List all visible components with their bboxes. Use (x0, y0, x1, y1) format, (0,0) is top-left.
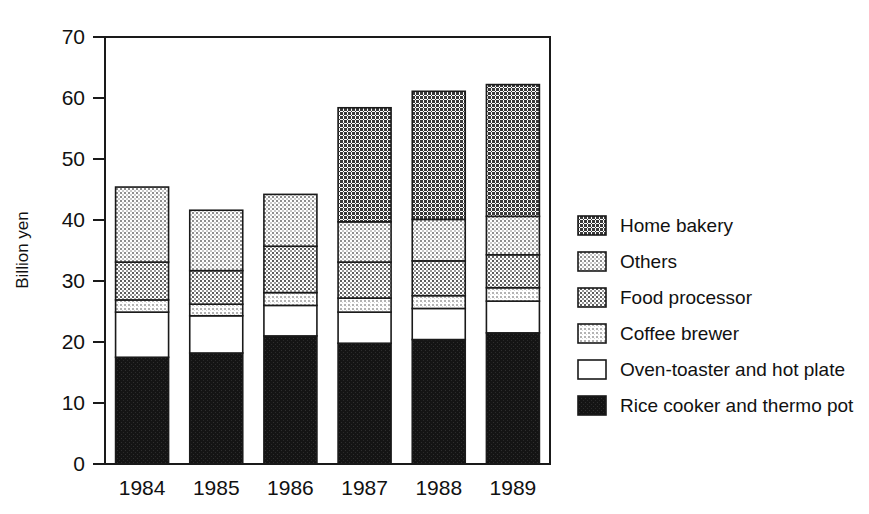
y-axis-tick-labels: 010203040506070 (62, 25, 85, 475)
bar-segment (486, 333, 539, 464)
bar-segment (338, 262, 391, 298)
legend-swatch (578, 288, 606, 307)
bar-segment (116, 312, 169, 357)
bar-segment (486, 85, 539, 217)
bar-segment (116, 357, 169, 464)
bar-segment (190, 353, 243, 464)
y-tick-label-30: 30 (62, 269, 85, 292)
plot-frame (105, 37, 550, 464)
legend-label: Others (620, 251, 677, 272)
bar-segment (264, 246, 317, 292)
bar-segment (338, 108, 391, 222)
legend-label: Rice cooker and thermo pot (620, 395, 854, 416)
bar-segment (264, 305, 317, 336)
legend-label: Oven-toaster and hot plate (620, 359, 845, 380)
legend-label: Coffee brewer (620, 323, 740, 344)
legend-swatch (578, 216, 606, 235)
bar-segment (486, 216, 539, 254)
y-tick-label-40: 40 (62, 208, 85, 231)
bar-segment (190, 271, 243, 305)
plot-area-border (105, 37, 550, 464)
y-tick-label-60: 60 (62, 86, 85, 109)
x-tick-label-1985: 1985 (193, 476, 240, 499)
x-axis-tick-labels: 198419851986198719881989 (119, 476, 537, 499)
y-tick-label-50: 50 (62, 147, 85, 170)
bar-segment (486, 288, 539, 301)
bar-segment (116, 262, 169, 300)
bar-segment (190, 304, 243, 316)
bar-segment (264, 194, 317, 246)
bar-segment (338, 222, 391, 262)
bar-segment (116, 187, 169, 262)
bar-segment (338, 298, 391, 312)
legend-label: Food processor (620, 287, 753, 308)
legend-label: Home bakery (620, 215, 733, 236)
bar-segment (486, 255, 539, 288)
bar-segment (412, 308, 465, 339)
bar-segment (412, 261, 465, 296)
bar-segment (264, 293, 317, 306)
chart-canvas: 010203040506070 Billion yen 198419851986… (0, 0, 869, 514)
legend-swatch (578, 396, 606, 415)
y-axis-ticks (93, 37, 105, 464)
x-tick-label-1987: 1987 (341, 476, 388, 499)
bar-segment (412, 91, 465, 219)
legend: Home bakeryOthersFood processorCoffee br… (578, 215, 854, 416)
stacked-bar-chart: 010203040506070 Billion yen 198419851986… (0, 0, 869, 514)
x-tick-label-1989: 1989 (490, 476, 537, 499)
y-tick-label-20: 20 (62, 330, 85, 353)
legend-swatch (578, 324, 606, 343)
bar-segment (338, 343, 391, 464)
y-axis-title: Billion yen (13, 211, 32, 289)
bar-segment (338, 312, 391, 343)
x-tick-label-1986: 1986 (267, 476, 314, 499)
bar-segment (412, 296, 465, 309)
legend-swatch (578, 360, 606, 379)
bar-segment (412, 219, 465, 260)
x-tick-label-1988: 1988 (415, 476, 462, 499)
x-tick-label-1984: 1984 (119, 476, 166, 499)
bar-segment (190, 210, 243, 270)
y-tick-label-70: 70 (62, 25, 85, 48)
y-tick-label-0: 0 (73, 452, 85, 475)
bar-segment (264, 336, 317, 464)
bar-segment (412, 340, 465, 464)
bar-segment (190, 316, 243, 353)
bar-segment (116, 300, 169, 312)
legend-swatch (578, 252, 606, 271)
bar-segment (486, 301, 539, 333)
y-tick-label-10: 10 (62, 391, 85, 414)
